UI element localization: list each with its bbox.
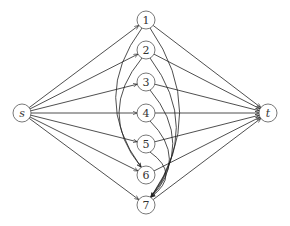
node-label: 6 [143,169,150,182]
node-5: 5 [137,135,155,153]
graph-diagram: s1234567t [0,0,290,226]
node-label: 1 [143,14,150,27]
edge-s-to-7 [29,118,139,199]
node-label: s [19,107,25,120]
node-2: 2 [137,41,155,59]
node-label: 7 [143,199,150,212]
node-label: 2 [143,44,150,57]
node-4: 4 [137,104,155,122]
node-1: 1 [137,11,155,29]
node-label: 5 [143,138,150,151]
node-t: t [259,104,277,122]
edge-s-to-5 [31,115,138,142]
node-6: 6 [137,166,155,184]
node-s: s [13,104,31,122]
node-label: 3 [143,76,150,89]
edge-s-to-3 [31,84,138,111]
edge-s-to-2 [30,54,138,109]
nodes-layer: s1234567t [13,11,277,214]
edge-s-to-6 [30,117,138,171]
node-3: 3 [137,73,155,91]
edge-s-to-1 [29,25,139,107]
node-7: 7 [137,196,155,214]
edge-5-to-t [155,115,260,142]
node-label: t [266,107,271,120]
edge-3-to-t [155,84,260,111]
edge-2-to-t [154,54,260,109]
node-label: 4 [143,107,150,120]
edge-1-to-t [153,25,261,107]
